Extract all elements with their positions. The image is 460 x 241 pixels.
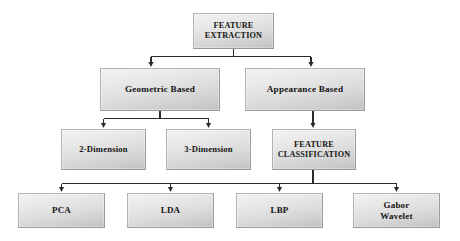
node-lda-label: LDA [159,205,183,216]
node-feature-classification[interactable]: FEATURE CLASSIFICATION [272,129,356,170]
node-gabor-wavelet-label: Gabor Wavelet [378,200,414,221]
node-2-dimension-label: 2-Dimension [77,144,130,154]
node-geometric-based[interactable]: Geometric Based [100,68,220,111]
node-feature-extraction-label: FEATURE EXTRACTION [203,21,265,40]
node-feature-classification-label: FEATURE CLASSIFICATION [276,140,353,159]
feature-extraction-diagram: FEATURE EXTRACTION Geometric Based Appea… [0,0,460,241]
node-lbp[interactable]: LBP [236,193,323,228]
node-pca[interactable]: PCA [18,193,105,228]
node-appearance-based[interactable]: Appearance Based [245,68,365,111]
node-2-dimension[interactable]: 2-Dimension [61,129,146,170]
node-3-dimension-label: 3-Dimension [182,144,235,154]
node-lda[interactable]: LDA [127,193,214,228]
node-geometric-based-label: Geometric Based [123,84,197,95]
node-gabor-wavelet[interactable]: Gabor Wavelet [353,193,440,228]
node-pca-label: PCA [50,205,73,216]
node-feature-extraction[interactable]: FEATURE EXTRACTION [193,13,274,49]
node-lbp-label: LBP [268,205,290,216]
node-3-dimension[interactable]: 3-Dimension [166,129,251,170]
node-appearance-based-label: Appearance Based [265,84,345,95]
